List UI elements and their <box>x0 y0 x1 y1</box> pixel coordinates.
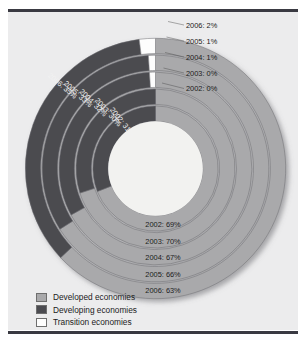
chart-legend: Developed economies Developing economies… <box>36 291 216 329</box>
developed-label-1: 2003: 70% <box>145 237 181 246</box>
legend-swatch-developing <box>36 305 47 314</box>
legend-label-transition: Transition economies <box>53 318 132 326</box>
legend-label-developing: Developing economies <box>53 306 137 314</box>
legend-label-developed: Developed economies <box>53 293 135 301</box>
transition-label-4: 2002: 0% <box>186 84 218 93</box>
transition-label-0: 2006: 2% <box>186 21 218 30</box>
developed-label-2: 2004: 67% <box>145 253 181 262</box>
legend-item-developing[interactable]: Developing economies <box>36 304 216 317</box>
legend-item-transition[interactable]: Transition economies <box>36 316 216 329</box>
ring-segment-2004-transition[interactable] <box>149 72 155 87</box>
legend-swatch-developed <box>36 293 47 302</box>
donut-hole <box>108 121 203 216</box>
transition-label-2: 2004: 1% <box>186 53 218 62</box>
legend-item-developed[interactable]: Developed economies <box>36 291 216 304</box>
ring-segment-2006-transition[interactable] <box>139 38 155 54</box>
developed-label-3: 2005: 66% <box>145 270 181 279</box>
transition-label-1: 2005: 1% <box>186 37 218 46</box>
legend-swatch-transition <box>36 318 47 327</box>
developed-label-0: 2002: 69% <box>145 220 181 229</box>
ring-separators <box>108 121 203 216</box>
transition-label-3: 2003: 0% <box>186 69 218 78</box>
leader-line-transition-0 <box>168 22 184 26</box>
chart-figure: 2006: 2%2005: 1%2004: 1%2003: 0%2002: 0%… <box>0 0 306 345</box>
ring-segment-2005-transition[interactable] <box>148 55 155 70</box>
